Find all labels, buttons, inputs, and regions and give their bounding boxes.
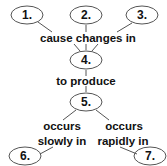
link-label-cause-changes-in: cause changes in bbox=[40, 32, 132, 45]
link-label-to-produce: to produce bbox=[50, 75, 122, 88]
node-6: 6. bbox=[9, 146, 41, 166]
link-label-occurs-slowly-line1: occurs bbox=[34, 120, 90, 133]
link-label-occurs-slowly-line2: slowly in bbox=[34, 135, 90, 148]
node-1: 1. bbox=[11, 5, 43, 25]
link-label-occurs-rapidly-line1: occurs bbox=[96, 120, 152, 133]
node-3: 3. bbox=[126, 5, 158, 25]
node-4: 4. bbox=[70, 50, 102, 70]
node-5: 5. bbox=[70, 92, 102, 112]
node-7: 7. bbox=[134, 146, 166, 166]
node-2: 2. bbox=[70, 5, 102, 25]
